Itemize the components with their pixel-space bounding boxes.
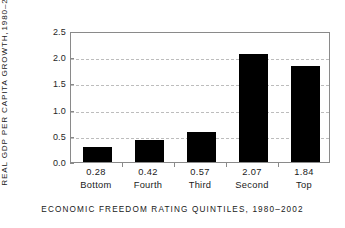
bar-value-label: 2.07 <box>226 166 278 179</box>
y-tick-label: 1.5 <box>40 79 66 89</box>
bar-slot <box>279 33 331 162</box>
bars-group <box>71 33 329 162</box>
bar-value-label: 1.84 <box>278 166 330 179</box>
bar-slot <box>227 33 279 162</box>
y-tick-label: 0.0 <box>40 158 66 168</box>
x-category-label: Third <box>174 179 226 192</box>
x-category-label: Bottom <box>70 179 122 192</box>
x-label-group: 0.28Bottom <box>70 166 122 192</box>
x-axis-tick-labels: 0.28Bottom0.42Fourth0.57Third2.07Second1… <box>70 166 330 198</box>
bar-value-label: 0.28 <box>70 166 122 179</box>
x-axis-caption: ECONOMIC FREEDOM RATING QUINTILES, 1980–… <box>0 205 345 214</box>
bar <box>135 140 164 162</box>
x-label-group: 2.07Second <box>226 166 278 192</box>
bar-value-label: 0.42 <box>122 166 174 179</box>
y-tick-mark <box>70 111 74 112</box>
bar-value-label: 0.57 <box>174 166 226 179</box>
x-label-group: 0.57Third <box>174 166 226 192</box>
y-tick-mark <box>70 137 74 138</box>
plot-area <box>70 32 330 163</box>
y-tick-mark <box>70 58 74 59</box>
x-label-group: 1.84Top <box>278 166 330 192</box>
bar-chart-figure: REAL GDP PER CAPITA GROWTH, 1980–2002 0.… <box>0 0 345 228</box>
y-tick-label: 2.5 <box>40 27 66 37</box>
bar <box>291 66 320 162</box>
y-tick-mark <box>70 84 74 85</box>
x-category-label: Second <box>226 179 278 192</box>
bar-slot <box>175 33 227 162</box>
x-category-label: Top <box>278 179 330 192</box>
x-category-label: Fourth <box>122 179 174 192</box>
y-tick-mark <box>70 32 74 33</box>
bar-slot <box>123 33 175 162</box>
bar <box>83 147 112 162</box>
y-tick-label: 0.5 <box>40 132 66 142</box>
x-label-group: 0.42Fourth <box>122 166 174 192</box>
y-axis-label-line-1: REAL GDP PER CAPITA GROWTH, <box>0 32 10 186</box>
y-tick-label: 1.0 <box>40 106 66 116</box>
bar-slot <box>71 33 123 162</box>
y-tick-label: 2.0 <box>40 53 66 63</box>
y-tick-mark <box>70 163 74 164</box>
y-axis-label: REAL GDP PER CAPITA GROWTH, 1980–2002 <box>0 0 42 170</box>
y-axis-tick-labels: 0.00.51.01.52.02.5 <box>38 32 66 163</box>
bar <box>187 132 216 162</box>
bar <box>239 54 268 162</box>
y-axis-label-line-2: 1980–2002 <box>0 0 10 31</box>
